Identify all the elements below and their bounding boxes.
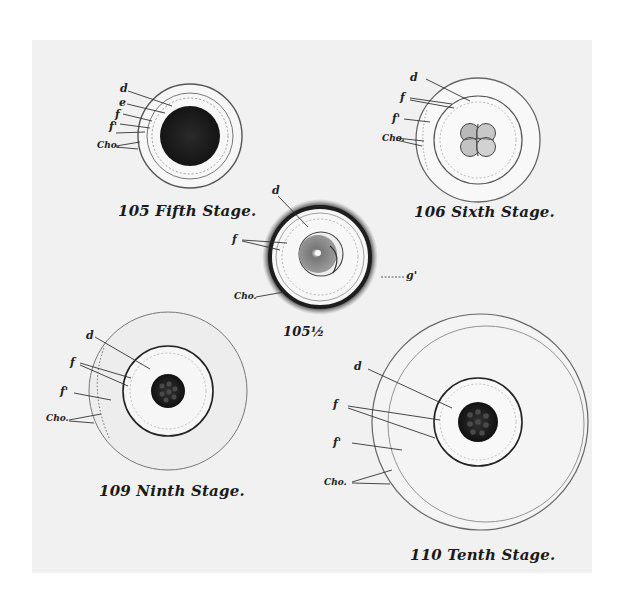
nucleus-dark	[160, 106, 220, 166]
label-109-d: d	[86, 329, 94, 342]
label-110-d: d	[354, 360, 362, 373]
caption-109-ninth-stage: 109 Ninth Stage.	[99, 482, 245, 500]
label-106-f-prime: f'	[392, 112, 400, 125]
label-110-cho: Cho.	[324, 477, 347, 487]
label-105-d: d	[120, 82, 128, 95]
label-106-d: d	[410, 71, 418, 84]
caption-105-half: 105½	[283, 324, 325, 339]
embryo-stages-illustration	[0, 0, 631, 606]
figure-109-ninth-stage	[69, 312, 247, 470]
label-109-f-prime: f'	[60, 385, 68, 398]
figure-105-half	[242, 196, 405, 315]
label-105half-cho: Cho.	[234, 291, 257, 301]
label-109-f: f	[70, 356, 75, 369]
label-105half-d: d	[272, 184, 280, 197]
label-105half-f: f	[232, 233, 237, 246]
label-106-f: f	[400, 91, 405, 104]
label-105half-g-prime: g'	[406, 269, 417, 282]
figure-110-tenth-stage	[348, 314, 588, 530]
figure-106-sixth-stage	[396, 78, 540, 202]
figure-105-fifth-stage	[116, 84, 242, 188]
label-105-cho: Cho.	[97, 140, 120, 150]
caption-105-fifth-stage: 105 Fifth Stage.	[118, 202, 256, 220]
label-105-e: e	[119, 96, 126, 109]
caption-110-tenth-stage: 110 Tenth Stage.	[410, 546, 555, 564]
four-cell-cluster	[461, 124, 496, 157]
label-110-f: f	[333, 398, 338, 411]
label-106-cho: Cho.	[382, 133, 405, 143]
label-105-f-prime: f'	[109, 120, 117, 133]
label-109-cho: Cho.	[46, 413, 69, 423]
caption-106-sixth-stage: 106 Sixth Stage.	[414, 203, 555, 221]
label-110-f-prime: f'	[333, 436, 341, 449]
